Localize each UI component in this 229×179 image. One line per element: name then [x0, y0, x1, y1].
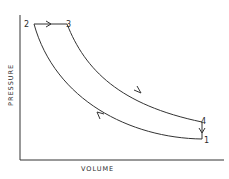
pv-diagram: 2 3 4 1 VOLUME PRESSURE — [0, 0, 229, 179]
arrow-1-2-icon — [97, 112, 104, 119]
point-label-2: 2 — [24, 20, 29, 29]
x-axis-label: VOLUME — [81, 165, 114, 173]
point-label-1: 1 — [204, 136, 209, 145]
process-3-4 — [67, 24, 202, 122]
y-axis-label: PRESSURE — [7, 64, 15, 106]
point-label-3: 3 — [66, 20, 71, 29]
point-label-4: 4 — [201, 117, 206, 126]
arrow-3-4-icon — [134, 86, 141, 93]
process-1-2 — [34, 24, 202, 139]
